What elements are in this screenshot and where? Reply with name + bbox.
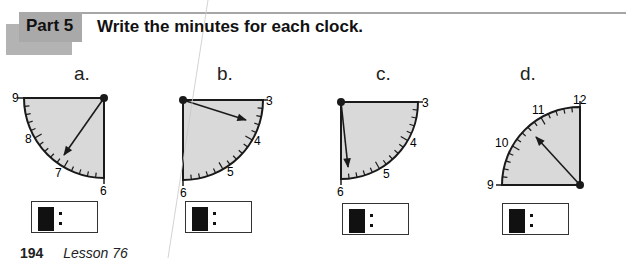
clock-a-num-6: 6	[100, 184, 107, 198]
clock-d-num-9: 9	[487, 178, 494, 192]
clock-b-answer-box[interactable]	[185, 201, 252, 233]
clock-a-answer-box[interactable]	[31, 201, 98, 233]
colon-icon	[213, 205, 217, 225]
clock-a: 9 8 7 6	[12, 91, 108, 198]
clock-d-num-11: 11	[532, 103, 545, 117]
colon-icon	[59, 205, 63, 225]
colon-icon	[370, 207, 374, 227]
clock-c-num-3: 3	[422, 96, 429, 110]
hour-block	[38, 207, 54, 231]
clock-d-num-10: 10	[495, 136, 509, 150]
clock-a-num-9: 9	[12, 91, 19, 105]
clock-d-answer-box[interactable]	[502, 203, 569, 235]
clock-b-num-5: 5	[227, 165, 234, 179]
clock-c: 3 4 5 6	[337, 96, 429, 199]
clock-c-answer-box[interactable]	[342, 203, 409, 235]
clock-a-num-8: 8	[25, 132, 32, 146]
page-number: 194	[20, 245, 43, 258]
clock-d: 9 10 11 12	[487, 93, 587, 192]
clock-c-num-6: 6	[337, 185, 344, 199]
lesson-label: Lesson 76	[63, 245, 128, 258]
colon-icon	[530, 207, 534, 227]
hour-block	[509, 209, 525, 233]
clock-c-num-4: 4	[410, 136, 417, 150]
clock-d-num-12: 12	[573, 93, 587, 107]
hour-block	[192, 207, 208, 231]
clock-b-num-6: 6	[180, 186, 187, 200]
clock-b-num-4: 4	[254, 134, 261, 148]
clock-b: 3 4 5 6	[179, 94, 273, 200]
clock-a-num-7: 7	[55, 166, 62, 180]
page-footer: 194 Lesson 76	[20, 245, 128, 258]
clock-b-num-3: 3	[266, 94, 273, 108]
hour-block	[349, 209, 365, 233]
clock-c-num-5: 5	[383, 167, 390, 181]
